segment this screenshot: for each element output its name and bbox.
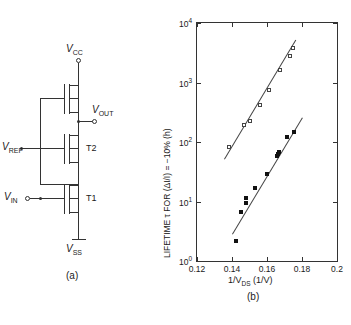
plot-panel: 1/VDS (1/V) LIFETIME τ FOR (ΔI/I) = −10%… (0, 0, 351, 325)
data-point-filled-squares (285, 135, 289, 139)
y-tick-label: 103 (164, 78, 192, 88)
x-tick-label: 0.14 (218, 265, 246, 274)
data-point-open-squares (258, 103, 262, 107)
data-point-filled-squares (244, 196, 248, 200)
y-tick-left (197, 23, 201, 24)
y-tick-left (197, 83, 201, 84)
x-tick-bottom (267, 257, 268, 261)
y-tick-label: 100 (164, 256, 192, 266)
y-axis-title: LIFETIME τ FOR (ΔI/I) = −10% (h) (163, 129, 172, 258)
y-tick-right (333, 23, 337, 24)
data-point-open-squares (248, 119, 252, 123)
y-tick-left (197, 142, 201, 143)
data-point-filled-squares (234, 239, 238, 243)
y-tick-label: 104 (164, 18, 192, 28)
data-point-filled-squares (292, 130, 296, 134)
data-point-filled-squares (239, 210, 243, 214)
x-axis-title: 1/VDS (1/V) (228, 276, 273, 287)
trend-line-open-squares (224, 40, 296, 160)
data-point-open-squares (267, 88, 271, 92)
x-tick-bottom (337, 257, 338, 261)
x-tick-bottom (232, 257, 233, 261)
data-point-open-squares (288, 54, 292, 58)
y-tick-left (197, 261, 201, 262)
data-point-filled-squares (244, 201, 248, 205)
y-tick-label: 102 (164, 137, 192, 147)
data-point-open-squares (291, 46, 295, 50)
x-tick-label: 0.2 (323, 265, 351, 274)
y-tick-right (333, 142, 337, 143)
trend-line-filled-squares (232, 117, 303, 234)
x-tick-top (232, 23, 233, 27)
x-tick-bottom (302, 257, 303, 261)
data-point-filled-squares (253, 186, 257, 190)
y-tick-right (333, 83, 337, 84)
y-tick-label: 101 (164, 197, 192, 207)
data-point-open-squares (278, 68, 282, 72)
figure-root: VCC VOUT (0, 0, 351, 325)
data-point-filled-squares (277, 150, 281, 154)
x-tick-top (337, 23, 338, 27)
panel-b-tag: (b) (247, 292, 259, 302)
x-tick-top (267, 23, 268, 27)
y-tick-right (333, 261, 337, 262)
data-point-filled-squares (265, 172, 269, 176)
x-tick-top (302, 23, 303, 27)
data-point-open-squares (227, 145, 231, 149)
data-point-open-squares (242, 123, 246, 127)
y-tick-left (197, 202, 201, 203)
x-tick-label: 0.18 (288, 265, 316, 274)
x-tick-label: 0.16 (253, 265, 281, 274)
y-tick-right (333, 202, 337, 203)
plot-frame (196, 22, 338, 262)
